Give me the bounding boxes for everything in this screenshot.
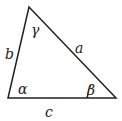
triangle-diagram: b a c γ α β [0,0,122,121]
side-c-label: c [45,104,53,120]
angle-gamma-label: γ [31,22,40,38]
side-a-label: a [75,40,83,56]
angle-alpha-label: α [18,81,28,97]
side-b-label: b [5,46,14,62]
angle-beta-label: β [86,82,95,98]
